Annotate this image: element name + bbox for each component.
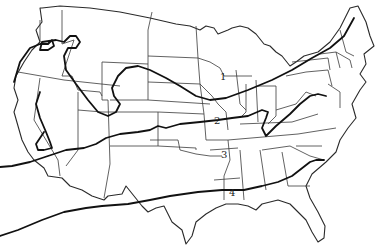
zone-label-2: 2: [214, 115, 220, 126]
us-zone-map: 1 2 3 4: [0, 0, 380, 245]
zone-label-4: 4: [229, 187, 235, 198]
zone-label-3: 3: [221, 149, 227, 160]
zone-label-1: 1: [220, 71, 226, 82]
